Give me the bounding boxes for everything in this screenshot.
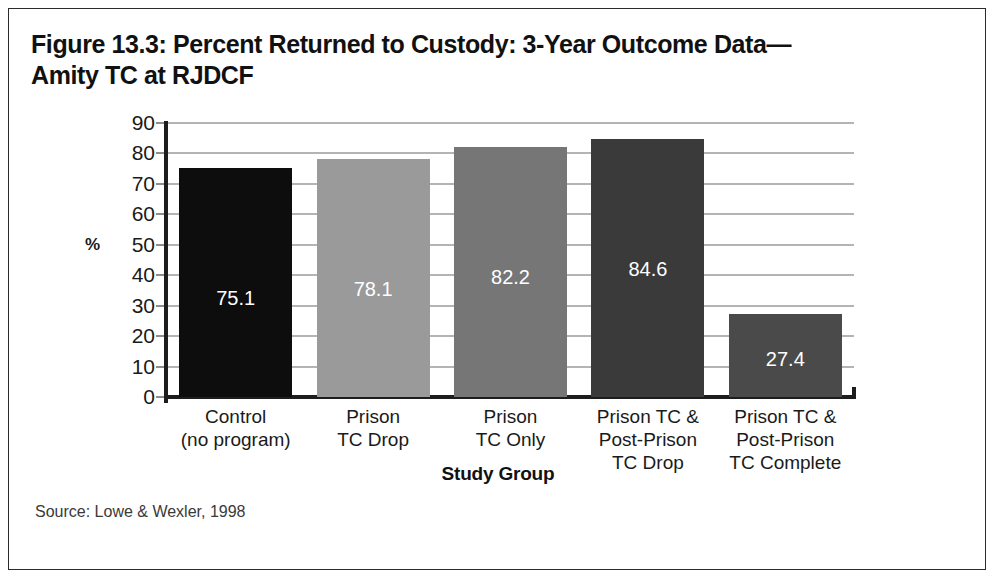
y-axis-tick-label: 60 [109, 203, 155, 224]
bar: 75.1 [179, 168, 292, 397]
x-axis-category-label: Prison TC Only [442, 405, 579, 451]
bar-value-label: 84.6 [591, 259, 704, 279]
x-axis-category-label: Control (no program) [167, 405, 304, 451]
x-axis-category-label: Prison TC Drop [304, 405, 441, 451]
bar-value-label: 27.4 [729, 349, 842, 369]
bar-chart: 0102030405060708090 % 75.178.182.284.627… [9, 9, 986, 570]
y-axis-tick-labels: 0102030405060708090 [99, 9, 155, 570]
y-axis-tick-label: 0 [109, 386, 155, 407]
plot-area: 75.178.182.284.627.4 [167, 123, 854, 397]
y-axis-tick-label: 50 [109, 234, 155, 255]
bar: 84.6 [591, 139, 704, 397]
y-axis-title: % [85, 235, 100, 255]
x-axis-title: Study Group [9, 463, 986, 485]
y-axis-tick-label: 10 [109, 356, 155, 377]
bar-value-label: 82.2 [454, 267, 567, 287]
y-axis-tick-label: 80 [109, 142, 155, 163]
bar: 78.1 [317, 159, 430, 397]
y-axis-tick-label: 20 [109, 325, 155, 346]
y-axis-tick-label: 40 [109, 264, 155, 285]
source-note: Source: Lowe & Wexler, 1998 [35, 503, 246, 521]
bar: 82.2 [454, 147, 567, 397]
bar-value-label: 75.1 [179, 288, 292, 308]
figure-frame: Figure 13.3: Percent Returned to Custody… [8, 8, 986, 570]
bar: 27.4 [729, 314, 842, 397]
y-axis-tick-label: 70 [109, 173, 155, 194]
y-axis-tick-label: 30 [109, 295, 155, 316]
bar-value-label: 78.1 [317, 279, 430, 299]
y-axis-tick-label: 90 [109, 112, 155, 133]
